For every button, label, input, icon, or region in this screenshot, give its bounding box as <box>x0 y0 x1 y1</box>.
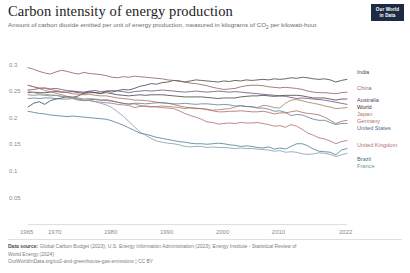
chart-footer: Data source: Global Carbon Budget (2023)… <box>8 243 403 266</box>
x-axis-tick-2022: 2022 <box>339 229 352 235</box>
legend-label-united-kingdom[interactable]: United Kingdom <box>357 142 397 148</box>
y-axis-tick-0.2: 0.2 <box>9 115 17 121</box>
owid-logo-line2: in Data <box>371 13 404 19</box>
series-line-australia[interactable] <box>28 88 347 104</box>
subtitle-text-1: Amount of carbon dioxide emitted per uni… <box>8 21 266 28</box>
y-axis-tick-0.15: 0.15 <box>9 141 21 147</box>
footer-license[interactable]: OurWorldInData.org/co2-and-greenhouse-ga… <box>8 258 403 266</box>
y-axis-tick-0.25: 0.25 <box>9 88 21 94</box>
owid-logo[interactable]: Our World in Data <box>371 4 404 21</box>
series-line-france[interactable] <box>28 91 347 156</box>
legend-label-japan[interactable]: Japan <box>357 111 372 117</box>
legend-label-china[interactable]: China <box>357 85 372 91</box>
y-axis-tick-0.05: 0.05 <box>9 195 21 201</box>
footer-source-line: Data source: Global Carbon Budget (2023)… <box>8 243 403 251</box>
legend-label-france[interactable]: France <box>357 163 375 169</box>
series-lines <box>28 68 347 157</box>
footer-source-line2: World Energy (2024) <box>8 251 403 259</box>
legend-label-brazil[interactable]: Brazil <box>357 156 371 162</box>
chart-subtitle: Amount of carbon dioxide emitted per uni… <box>8 21 318 30</box>
legend-label-india[interactable]: India <box>357 69 369 75</box>
line-chart-svg <box>0 40 410 230</box>
series-line-china[interactable] <box>28 68 347 94</box>
y-axis-tick-0.3: 0.3 <box>9 62 17 68</box>
page-title: Carbon intensity of energy production <box>8 3 233 20</box>
legend-label-germany[interactable]: Germany <box>357 118 380 124</box>
owid-logo-line1: Our World <box>371 7 404 13</box>
chart-page: Carbon intensity of energy production Am… <box>0 0 410 273</box>
x-axis-tick-2000: 2000 <box>216 229 229 235</box>
footer-divider <box>8 239 402 240</box>
legend-label-world[interactable]: World <box>357 104 372 110</box>
x-axis-tick-1970: 1970 <box>48 229 61 235</box>
y-axis-tick-0.1: 0.1 <box>9 168 17 174</box>
legend-label-australia[interactable]: Australia <box>357 97 379 103</box>
x-axis-tick-1965: 1965 <box>20 229 33 235</box>
series-line-brazil[interactable] <box>28 111 347 155</box>
footer-source-label: Data source: <box>8 243 38 249</box>
x-axis-tick-2010: 2010 <box>272 229 285 235</box>
x-axis-tick-1980: 1980 <box>104 229 117 235</box>
legend-label-united-states[interactable]: United States <box>357 125 391 131</box>
subtitle-text-2: per kilowatt-hour. <box>269 21 318 28</box>
plot-area <box>0 40 410 230</box>
footer-source-text: Global Carbon Budget (2023); U.S. Energy… <box>38 243 296 249</box>
x-axis-tick-1990: 1990 <box>160 229 173 235</box>
